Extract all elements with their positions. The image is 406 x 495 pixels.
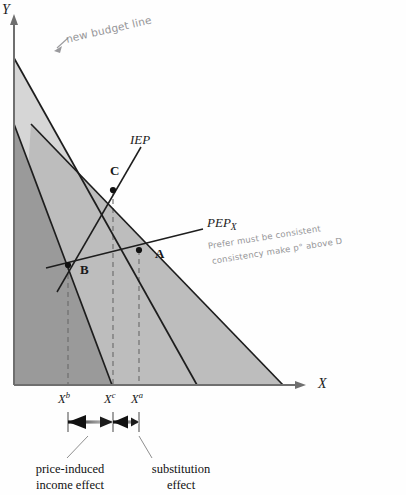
diagram-canvas: Y X A B C IEP PEPX Xb Xc Xa (0, 0, 406, 495)
handwriting-leader-layer (0, 0, 406, 495)
